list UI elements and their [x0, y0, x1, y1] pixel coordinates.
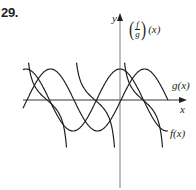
quotient-argument: (x) — [148, 23, 160, 35]
quotient-function-label: ( f g ) (x) — [128, 18, 160, 40]
fraction-numerator: f — [135, 20, 140, 30]
close-paren: ) — [141, 18, 146, 40]
g-function-label: g(x) — [172, 79, 190, 91]
graph-canvas — [0, 0, 196, 190]
open-paren: ( — [129, 18, 134, 40]
y-axis-label: y — [112, 12, 117, 24]
fraction-denominator: g — [134, 30, 141, 39]
f-function-label: f(x) — [170, 127, 185, 139]
y-axis-arrow-icon — [117, 13, 123, 21]
graph-figure: 29. y x ( f g ) (x) g(x) f(x) — [0, 0, 196, 190]
fraction: f g — [134, 20, 141, 39]
x-axis-label: x — [180, 103, 185, 115]
quotient-curve-branch-2 — [77, 63, 115, 148]
